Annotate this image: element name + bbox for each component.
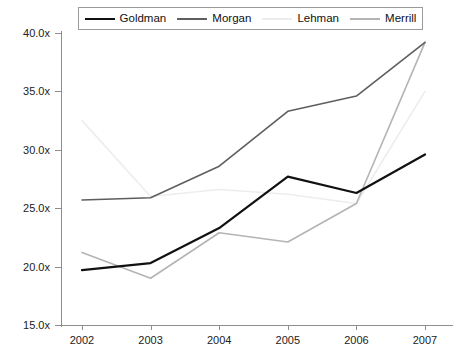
legend-label-lehman: Lehman	[297, 13, 339, 25]
legend-swatch-morgan	[177, 18, 207, 20]
legend-item-merrill: Merrill	[350, 13, 416, 25]
legend-label-morgan: Morgan	[212, 13, 251, 25]
series-line-goldman	[82, 154, 425, 270]
series-line-lehman	[82, 91, 425, 203]
series-line-merrill	[82, 42, 425, 278]
series-lines	[0, 0, 461, 359]
legend-label-merrill: Merrill	[385, 13, 416, 25]
legend-label-goldman: Goldman	[120, 13, 167, 25]
legend-item-morgan: Morgan	[177, 13, 251, 25]
legend-swatch-lehman	[262, 18, 292, 20]
chart-legend: Goldman Morgan Lehman Merrill	[78, 7, 423, 30]
legend-swatch-goldman	[85, 18, 115, 20]
line-chart: Goldman Morgan Lehman Merrill 40.0x35.0x…	[0, 0, 461, 359]
legend-swatch-merrill	[350, 18, 380, 20]
legend-item-lehman: Lehman	[262, 13, 339, 25]
legend-item-goldman: Goldman	[85, 13, 167, 25]
